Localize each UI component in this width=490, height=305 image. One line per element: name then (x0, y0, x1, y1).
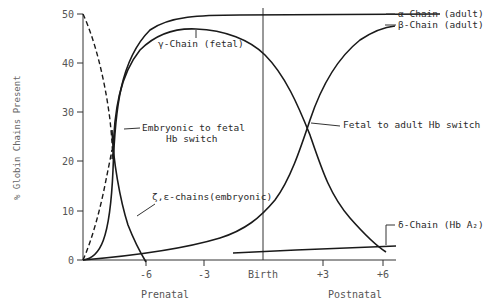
embryonic-chain-rise-dashed (83, 150, 112, 260)
embryonic-chains-label: ζ,ε-chains(embryonic) (152, 191, 272, 202)
x-tick-minus6: -6 (140, 269, 152, 280)
embryonic-chains-arrow (137, 204, 155, 216)
y-axis-label: % Globin Chains Present (12, 75, 22, 200)
y-ticks (77, 14, 83, 260)
x-tick-minus3: -3 (198, 269, 210, 280)
x-tick-plus3: +3 (317, 269, 329, 280)
x-tick-plus6: +6 (377, 269, 389, 280)
beta-chain-label: β-Chain (adult) (398, 19, 484, 30)
globin-chain-chart: % Globin Chains Present 50 40 30 20 10 0… (0, 0, 490, 305)
x-tick-birth: Birth (248, 269, 278, 280)
y-tick-10: 10 (62, 206, 74, 217)
delta-chain-curve (233, 246, 396, 253)
gamma-chain-curve (113, 29, 386, 252)
embryonic-chain-decline-solid (112, 130, 146, 262)
fetal-switch-label: Fetal to adult Hb switch (343, 119, 480, 130)
y-tick-20: 20 (62, 156, 74, 167)
x-group-prenatal: Prenatal (141, 289, 189, 300)
delta-arrow (386, 225, 395, 245)
y-tick-0: 0 (68, 255, 74, 266)
y-tick-50: 50 (62, 9, 74, 20)
y-tick-40: 40 (62, 58, 74, 69)
embryonic-switch-arrow (124, 128, 140, 129)
x-ticks (146, 260, 383, 266)
x-group-postnatal: Postnatal (328, 289, 382, 300)
fetal-switch-arrow (311, 123, 340, 126)
delta-chain-label: δ-Chain (Hb A₂) (398, 219, 484, 230)
alpha-chain-label: α-Chain (adult) (398, 8, 484, 19)
embryonic-switch-label-1: Embryonic to fetal (142, 122, 245, 133)
embryonic-switch-label-2: Hb switch (166, 133, 217, 144)
gamma-chain-label: γ-Chain (fetal) (158, 38, 244, 49)
embryonic-chain-decline-dashed (83, 14, 112, 160)
y-tick-30: 30 (62, 107, 74, 118)
